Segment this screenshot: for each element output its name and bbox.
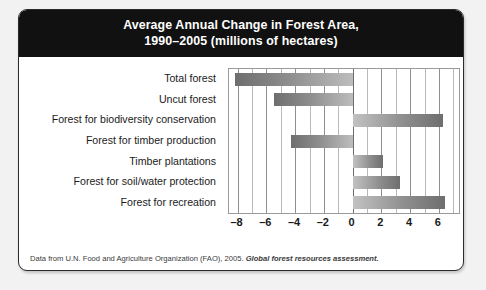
gridline-minor (453, 69, 454, 213)
zero-axis-line (353, 69, 354, 213)
gridline-minor (252, 69, 253, 213)
source-note-prefix: Data from U.N. Food and Agriculture Orga… (30, 254, 246, 263)
category-label: Forest for timber production (86, 135, 216, 146)
bar (274, 93, 353, 106)
bar (353, 176, 400, 189)
value-axis-ticks: –8–6–4–20246 (228, 216, 460, 232)
chart-card: Average Annual Change in Forest Area, 19… (18, 9, 464, 271)
plot-area (228, 68, 460, 214)
gridline-major (439, 69, 440, 213)
gridline-major (266, 69, 267, 213)
tick-label: 4 (406, 216, 412, 228)
tick-label: 0 (349, 216, 355, 228)
source-note: Data from U.N. Food and Agriculture Orga… (30, 254, 379, 263)
bar (291, 135, 353, 148)
bar (353, 155, 383, 168)
gridline-major (238, 69, 239, 213)
category-axis-labels: Total forestUncut forestForest for biodi… (19, 68, 222, 214)
category-label: Timber plantations (129, 156, 216, 167)
source-note-title: Global forest resources assessment. (246, 254, 379, 263)
gridline-minor (396, 69, 397, 213)
category-label: Uncut forest (159, 94, 216, 105)
category-label: Total forest (164, 73, 216, 84)
chart-title-line-1: Average Annual Change in Forest Area, (123, 18, 359, 33)
gridline-minor (367, 69, 368, 213)
category-label: Forest for soil/water protection (74, 176, 216, 187)
tick-label: 6 (435, 216, 441, 228)
gridline-major (410, 69, 411, 213)
gridline-minor (281, 69, 282, 213)
tick-label: –6 (259, 216, 271, 228)
tick-label: 2 (377, 216, 383, 228)
chart-title-bar: Average Annual Change in Forest Area, 19… (19, 10, 463, 57)
category-label: Forest for biodiversity conservation (52, 114, 216, 125)
tick-label: –2 (317, 216, 329, 228)
bar (353, 196, 445, 209)
tick-label: –8 (231, 216, 243, 228)
gridline-minor (425, 69, 426, 213)
tick-label: –4 (288, 216, 300, 228)
bar (235, 73, 353, 86)
category-label: Forest for recreation (121, 197, 216, 208)
chart-title-line-2: 1990–2005 (millions of hectares) (144, 34, 337, 49)
bar (353, 114, 444, 127)
chart-body: Total forestUncut forestForest for biodi… (19, 57, 463, 271)
gridline-major (381, 69, 382, 213)
